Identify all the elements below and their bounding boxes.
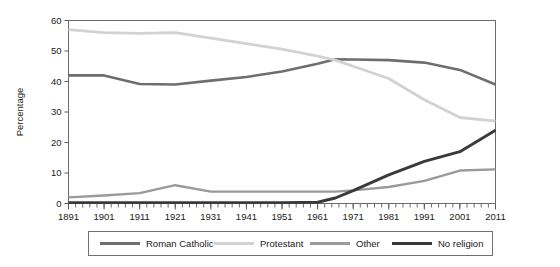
y-tick-label: 30 [51, 106, 62, 117]
x-axis: 1891190119111921193119411951196119711981… [58, 204, 506, 223]
legend-label-no-religion: No religion [438, 238, 483, 249]
x-tick-label: 1941 [236, 211, 257, 222]
y-tick-label: 60 [51, 15, 62, 26]
series-line-roman-catholic [69, 59, 496, 84]
y-tick-label: 40 [51, 76, 62, 87]
legend-label-roman-catholic: Roman Catholic [146, 238, 214, 249]
x-tick-label: 2011 [485, 211, 505, 222]
y-axis-title: Percentage [14, 88, 25, 137]
y-tick-label: 50 [51, 45, 62, 56]
legend-label-protestant: Protestant [260, 238, 304, 249]
series-lines [69, 30, 496, 203]
series-line-protestant [69, 30, 496, 122]
line-chart: 0102030405060 18911901191119211931194119… [0, 0, 560, 267]
x-tick-label: 1981 [378, 211, 399, 222]
x-tick-label: 1971 [343, 211, 364, 222]
chart-container: 0102030405060 18911901191119211931194119… [0, 0, 560, 267]
x-tick-label: 1961 [307, 211, 328, 222]
x-tick-label: 1951 [271, 211, 292, 222]
y-tick-label: 10 [51, 167, 62, 178]
x-tick-label: 2001 [449, 211, 470, 222]
y-tick-label: 20 [51, 137, 62, 148]
x-tick-label: 1931 [200, 211, 221, 222]
series-line-other [69, 169, 496, 197]
chart-legend: Roman CatholicProtestantOtherNo religion [89, 232, 493, 256]
legend-label-other: Other [356, 238, 380, 249]
y-tick-label: 0 [56, 198, 61, 209]
y-axis-label: Percentage [14, 88, 25, 137]
y-axis: 0102030405060 [51, 15, 69, 209]
x-tick-label: 1901 [94, 211, 115, 222]
x-tick-label: 1991 [414, 211, 435, 222]
x-tick-label: 1921 [165, 211, 186, 222]
x-tick-label: 1911 [129, 211, 149, 222]
x-tick-label: 1891 [58, 211, 79, 222]
